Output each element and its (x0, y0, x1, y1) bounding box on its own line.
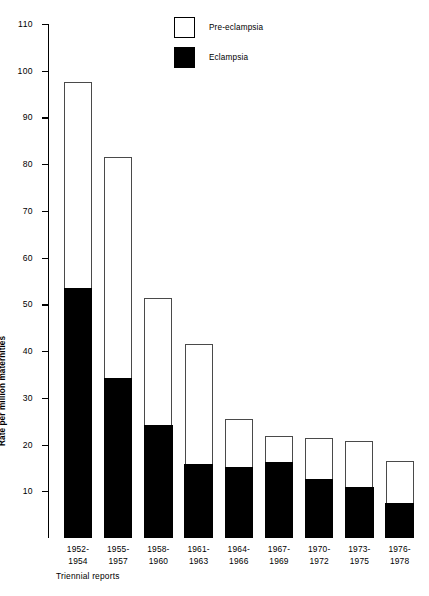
y-axis-tick: 10 (42, 491, 48, 492)
y-axis-line (48, 24, 49, 538)
x-axis-category-label: 1973-1975 (337, 544, 381, 567)
bar-segment-eclampsia (265, 462, 293, 538)
y-axis-tick-label: 20 (23, 440, 33, 450)
y-axis-tick-label: 50 (23, 299, 33, 309)
y-axis-tick-label: 80 (23, 159, 33, 169)
bar-segment-eclampsia (225, 467, 253, 538)
bar (265, 436, 293, 538)
y-axis-tick-label: 70 (23, 206, 33, 216)
y-axis-tick-label: 30 (23, 393, 33, 403)
bar (185, 344, 213, 538)
y-axis-tick: 50 (42, 304, 48, 305)
bar (144, 298, 172, 538)
x-axis-category-label: 1964-1966 (217, 544, 261, 567)
y-axis-tick: 70 (42, 211, 48, 212)
bar (104, 157, 132, 538)
y-axis-tick: 110 (42, 24, 48, 25)
bar-segment-eclampsia (64, 288, 92, 538)
bar-segment-eclampsia (144, 425, 172, 539)
bar-chart: Pre-eclampsia Eclampsia 1020304050607080… (0, 0, 429, 596)
x-axis-note: Triennial reports (56, 571, 120, 581)
x-axis-category-label: 1967-1969 (257, 544, 301, 567)
y-axis-tick: 80 (42, 164, 48, 165)
y-axis-tick: 20 (42, 445, 48, 446)
plot-area: 102030405060708090100110 (48, 24, 423, 538)
y-axis-title: Rate per million maternities (0, 306, 7, 446)
x-axis-category-label: 1955-1957 (96, 544, 140, 567)
bar (64, 82, 92, 538)
x-axis-category-label: 1958-1960 (136, 544, 180, 567)
y-axis-tick: 100 (42, 71, 48, 72)
y-axis-tick: 30 (42, 398, 48, 399)
x-axis-category-label: 1970-1972 (297, 544, 341, 567)
y-axis-tick: 40 (42, 351, 48, 352)
y-axis-tick-label: 40 (23, 346, 33, 356)
bar (225, 419, 253, 538)
x-axis-category-label: 1976-1978 (378, 544, 422, 567)
bar (345, 441, 373, 538)
bar-segment-eclampsia (184, 464, 212, 538)
bar (305, 438, 333, 538)
bar-segment-eclampsia (305, 479, 333, 538)
bar (386, 461, 414, 538)
y-axis-tick-label: 100 (17, 66, 33, 76)
y-axis-tick: 60 (42, 258, 48, 259)
bar-segment-eclampsia (104, 378, 132, 538)
bar-segment-eclampsia (385, 503, 413, 539)
y-axis-tick-label: 10 (23, 486, 33, 496)
y-axis-tick: 90 (42, 117, 48, 118)
y-axis-tick-label: 110 (18, 19, 33, 29)
bar-segment-eclampsia (345, 487, 373, 538)
y-axis-tick-label: 60 (23, 253, 33, 263)
y-axis-tick-label: 90 (23, 112, 33, 122)
x-axis-category-label: 1961-1963 (177, 544, 221, 567)
x-axis-category-label: 1952-1954 (56, 544, 100, 567)
